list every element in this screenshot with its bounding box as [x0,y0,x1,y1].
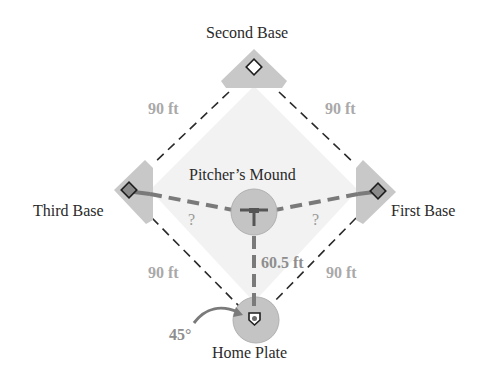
home-plate-label: Home Plate [212,345,287,361]
distance-bottom-left: 90 ft [148,265,179,281]
second-base-label: Second Base [206,25,288,41]
distance-top-left: 90 ft [148,101,179,117]
angle-arrow-icon [194,308,238,323]
angle-label: 45° [169,327,191,343]
third-base-label: Third Base [33,203,104,219]
diagram-graphic [0,0,495,388]
distance-top-right: 90 ft [325,101,356,117]
unknown-distance-first: ? [312,212,319,228]
distance-mound-to-home: 60.5 ft [261,255,304,271]
distance-bottom-right: 90 ft [326,265,357,281]
first-base-label: First Base [391,203,455,219]
baseball-diamond-diagram: Second Base Third Base First Base Pitche… [0,0,495,388]
pitchers-mound-label: Pitcher’s Mound [189,167,296,183]
unknown-distance-third: ? [188,212,195,228]
